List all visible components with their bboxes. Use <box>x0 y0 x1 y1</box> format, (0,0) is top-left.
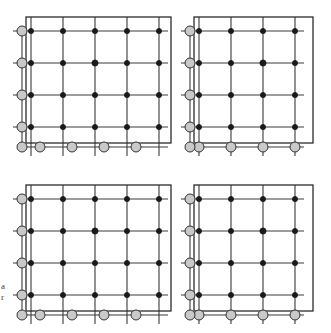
node-interior <box>228 60 233 65</box>
node-interior <box>92 196 97 201</box>
node-interior <box>28 292 33 297</box>
node-interior <box>28 60 33 65</box>
node-interior <box>196 196 201 201</box>
boundary-node-left <box>17 226 27 236</box>
boundary-node-left <box>185 194 195 204</box>
node-center <box>260 60 266 66</box>
node-interior <box>292 60 297 65</box>
node-interior <box>92 92 97 97</box>
node-interior <box>292 260 297 265</box>
boundary-node-bottom <box>67 310 77 320</box>
node-interior <box>124 196 129 201</box>
mesh-canvas <box>0 0 331 333</box>
boundary-node-left <box>17 90 27 100</box>
boundary-node-bottom <box>99 310 109 320</box>
boundary-node-corner <box>185 310 195 320</box>
boundary-node-corner <box>17 142 27 152</box>
boundary-node-corner <box>17 310 27 320</box>
boundary-node-bottom <box>290 142 300 152</box>
node-interior <box>156 292 161 297</box>
node-interior <box>28 260 33 265</box>
node-interior <box>156 92 161 97</box>
boundary-node-bottom <box>258 310 268 320</box>
node-interior <box>28 28 33 33</box>
node-interior <box>260 28 265 33</box>
node-interior <box>60 28 65 33</box>
node-interior <box>28 228 33 233</box>
edge-label-line2: r <box>1 292 4 303</box>
boundary-node-left <box>185 258 195 268</box>
node-interior <box>28 92 33 97</box>
node-interior <box>156 60 161 65</box>
node-interior <box>92 260 97 265</box>
node-interior <box>228 196 233 201</box>
node-interior <box>196 292 201 297</box>
boundary-node-left <box>17 290 27 300</box>
node-interior <box>196 260 201 265</box>
boundary-node-left <box>185 226 195 236</box>
node-interior <box>228 228 233 233</box>
node-interior <box>92 28 97 33</box>
boundary-node-bottom <box>258 142 268 152</box>
node-interior <box>60 196 65 201</box>
node-interior <box>292 196 297 201</box>
node-interior <box>228 92 233 97</box>
lattice-figure: a r <box>0 0 331 333</box>
boundary-node-left <box>17 26 27 36</box>
node-interior <box>260 292 265 297</box>
node-interior <box>292 228 297 233</box>
quadrant-borders-group <box>26 17 313 311</box>
node-interior <box>124 60 129 65</box>
boundary-node-bottom <box>290 310 300 320</box>
node-interior <box>60 292 65 297</box>
node-interior <box>92 292 97 297</box>
boundary-node-bottom <box>131 310 141 320</box>
node-interior <box>156 28 161 33</box>
node-interior <box>124 292 129 297</box>
node-interior <box>196 60 201 65</box>
node-interior <box>28 124 33 129</box>
node-interior <box>60 92 65 97</box>
node-interior <box>292 92 297 97</box>
node-interior <box>60 228 65 233</box>
node-interior <box>196 124 201 129</box>
boundary-node-bottom <box>226 142 236 152</box>
boundary-node-bottom <box>67 142 77 152</box>
boundary-node-bottom <box>35 142 45 152</box>
node-interior <box>196 228 201 233</box>
node-interior <box>156 124 161 129</box>
node-interior <box>260 196 265 201</box>
node-interior <box>124 228 129 233</box>
node-interior <box>260 260 265 265</box>
boundary-node-corner <box>185 142 195 152</box>
node-interior <box>292 292 297 297</box>
node-interior <box>228 260 233 265</box>
node-interior <box>60 60 65 65</box>
boundary-node-left <box>185 26 195 36</box>
node-interior <box>228 124 233 129</box>
node-interior <box>228 292 233 297</box>
node-interior <box>124 92 129 97</box>
node-interior <box>156 228 161 233</box>
node-interior <box>124 124 129 129</box>
node-interior <box>92 124 97 129</box>
node-interior <box>124 28 129 33</box>
node-interior <box>156 260 161 265</box>
boundary-node-bottom <box>99 142 109 152</box>
node-interior <box>60 260 65 265</box>
node-interior <box>260 92 265 97</box>
boundary-node-left <box>17 58 27 68</box>
node-interior <box>196 28 201 33</box>
boundary-node-left <box>17 258 27 268</box>
node-center <box>260 228 266 234</box>
node-interior <box>292 124 297 129</box>
edge-label-line1: a <box>1 281 5 292</box>
boundary-node-bottom <box>226 310 236 320</box>
node-interior <box>156 196 161 201</box>
boundary-node-left <box>17 194 27 204</box>
boundary-node-left <box>185 58 195 68</box>
node-interior <box>28 196 33 201</box>
node-center <box>92 60 98 66</box>
node-interior <box>60 124 65 129</box>
boundary-node-left <box>185 90 195 100</box>
